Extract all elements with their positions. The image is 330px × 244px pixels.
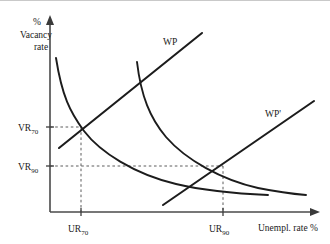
y-axis-unit-label: %: [33, 17, 41, 27]
x-tick-label-ur90: UR90: [209, 224, 230, 237]
wp-prime-line-label: WP': [265, 109, 281, 119]
y-axis-arrow-icon: [46, 15, 54, 25]
y-axis-name-line1: Vacancy: [20, 30, 52, 40]
beveridge-curve-1970: [56, 58, 268, 195]
x-tick-label-ur90-sub: 90: [222, 229, 230, 237]
y-tick-label-vr70-base: VR: [18, 123, 32, 133]
x-tick-label-ur70: UR70: [68, 224, 89, 237]
chart-svg: % Vacancy rate VR70 VR90 UR70 UR90 Unemp…: [0, 0, 330, 244]
wp-line-label: WP: [163, 37, 177, 47]
y-tick-label-vr90-base: VR: [18, 162, 32, 172]
x-axis-title: Unempl. rate %: [258, 223, 318, 233]
beveridge-curve-figure: % Vacancy rate VR70 VR90 UR70 UR90 Unemp…: [0, 0, 330, 244]
x-tick-label-ur70-sub: 70: [81, 229, 89, 237]
y-tick-label-vr90-sub: 90: [31, 167, 39, 175]
wp-prime-line: [163, 101, 314, 205]
y-tick-label-vr70: VR70: [18, 123, 39, 136]
x-tick-label-ur90-base: UR: [209, 224, 223, 234]
x-tick-label-ur70-base: UR: [68, 224, 82, 234]
y-tick-label-vr90: VR90: [18, 162, 39, 175]
y-axis-name-line2: rate: [34, 42, 48, 52]
x-axis-arrow-icon: [310, 208, 320, 216]
beveridge-curve-1990: [137, 62, 306, 195]
wp-line: [59, 33, 202, 148]
y-tick-label-vr70-sub: 70: [31, 128, 39, 136]
